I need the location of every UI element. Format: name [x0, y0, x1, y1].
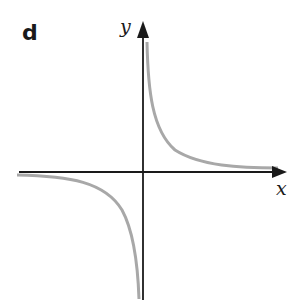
hyperbola-graph: [0, 0, 296, 302]
curve-branch-third-quadrant: [17, 175, 139, 299]
x-axis-arrow-icon: [272, 166, 287, 178]
y-axis-arrow-icon: [137, 21, 149, 38]
curve-branch-first-quadrant: [147, 42, 278, 168]
